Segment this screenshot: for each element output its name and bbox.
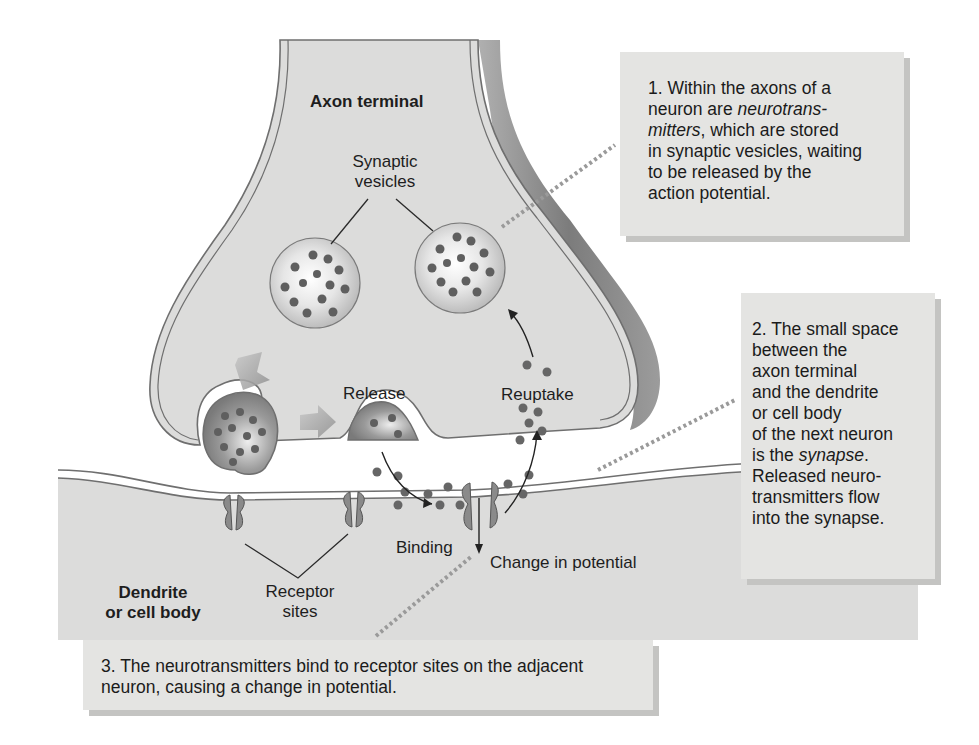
callout-3-line: neuron, causing a change in potential. <box>101 677 653 698</box>
label-receptor-sites-line1: Receptor <box>250 582 350 602</box>
callout-1-line: action potential. <box>648 183 904 204</box>
label-release: Release <box>343 384 405 404</box>
label-axon-terminal: Axon terminal <box>310 92 423 112</box>
callout-2-line: and the dendrite <box>752 382 935 403</box>
callout-1-line: 1. Within the axons of a <box>648 78 904 99</box>
callout-2-line: is the synapse. <box>752 445 935 466</box>
callout-2-text: . <box>864 445 869 465</box>
docking-vesicle <box>203 392 277 474</box>
callout-2: 2. The small space between the axon term… <box>741 293 935 579</box>
label-binding: Binding <box>396 538 453 558</box>
callout-1-line: neuron are neurotrans- <box>648 99 904 120</box>
callout-1-emphasis: neurotrans- <box>738 99 828 119</box>
label-synaptic-vesicles: Synaptic vesicles <box>330 152 440 192</box>
callout-2-line: transmitters flow <box>752 487 935 508</box>
synaptic-vesicle-left <box>270 238 360 328</box>
callout-2-line: of the next neuron <box>752 424 935 445</box>
callout-2-emphasis: synapse <box>799 445 864 465</box>
label-receptor-sites-line2: sites <box>250 602 350 622</box>
callout-2-line: 2. The small space <box>752 319 935 340</box>
label-synaptic-vesicles-line2: vesicles <box>330 172 440 192</box>
label-reuptake: Reuptake <box>501 385 574 405</box>
synaptic-vesicle-right <box>415 223 505 313</box>
label-dendrite-line2: or cell body <box>88 603 218 623</box>
callout-2-line: Released neuro- <box>752 466 935 487</box>
label-change-in-potential: Change in potential <box>490 553 637 573</box>
callout-1-text: neuron are <box>648 99 738 119</box>
callout-1-line: to be released by the <box>648 162 904 183</box>
callout-2-line: between the <box>752 340 935 361</box>
label-dendrite-or-cell-body: Dendrite or cell body <box>88 583 218 623</box>
callout-2-line: into the synapse. <box>752 508 935 529</box>
callout-1: 1. Within the axons of a neuron are neur… <box>620 52 904 236</box>
callout-1-text: , which are stored <box>701 120 839 140</box>
callout-1-line: in synaptic vesicles, waiting <box>648 141 904 162</box>
callout-1-line: mitters, which are stored <box>648 120 904 141</box>
callout-2-line: axon terminal <box>752 361 935 382</box>
callout-2-line: or cell body <box>752 403 935 424</box>
label-synaptic-vesicles-line1: Synaptic <box>330 152 440 172</box>
callout-3: 3. The neurotransmitters bind to recepto… <box>83 640 653 710</box>
callout-3-line: 3. The neurotransmitters bind to recepto… <box>101 656 653 677</box>
label-dendrite-line1: Dendrite <box>88 583 218 603</box>
label-receptor-sites: Receptor sites <box>250 582 350 622</box>
callout-1-emphasis: mitters <box>648 120 701 140</box>
callout-2-text: is the <box>752 445 799 465</box>
